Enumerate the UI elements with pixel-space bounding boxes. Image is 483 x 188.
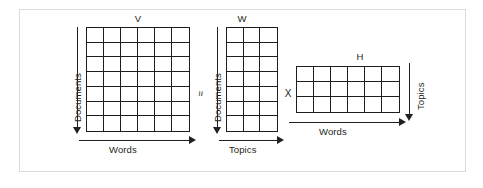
matrix-cell	[121, 43, 138, 58]
matrix-cell	[87, 57, 104, 72]
matrix-cell	[244, 28, 261, 43]
axis-label-v-words: Words	[109, 144, 137, 155]
matrix-cell	[244, 57, 261, 72]
matrix-cell	[104, 72, 121, 87]
matrix-cell	[138, 57, 155, 72]
matrix-cell	[121, 28, 138, 43]
arrowhead-down-icon	[73, 127, 81, 134]
matrix-cell	[172, 43, 189, 58]
matrix-cell	[314, 67, 331, 82]
matrix-cell	[365, 82, 382, 97]
axis-label-h-words: Words	[319, 126, 347, 137]
matrix-cell	[172, 72, 189, 87]
matrix-cell	[155, 28, 172, 43]
matrix-cell	[172, 87, 189, 102]
matrix-cell	[297, 82, 314, 97]
matrix-cell	[260, 28, 277, 43]
matrix-cell	[138, 87, 155, 102]
matrix-cell	[331, 67, 348, 82]
matrix-cell	[121, 102, 138, 117]
matrix-cell	[87, 87, 104, 102]
matrix-cell	[121, 72, 138, 87]
matrix-cell	[138, 28, 155, 43]
matrix-cell	[227, 102, 244, 117]
matrix-cell	[348, 97, 365, 112]
matrix-cell	[104, 28, 121, 43]
matrix-cell	[155, 57, 172, 72]
matrix-cell	[172, 102, 189, 117]
arrowhead-right-icon	[277, 136, 284, 144]
matrix-cell	[260, 87, 277, 102]
matrix-cell	[172, 28, 189, 43]
matrix-label-w: W	[206, 13, 278, 24]
matrix-cell	[227, 28, 244, 43]
matrix-cell	[331, 97, 348, 112]
times-operator: X	[282, 88, 294, 99]
axis-label-w-documents: Documents	[212, 73, 223, 122]
matrix-cell	[244, 72, 261, 87]
matrix-cell	[121, 57, 138, 72]
matrix-w	[226, 27, 278, 132]
axis-label-w-topics: Topics	[229, 144, 257, 155]
matrix-cell	[155, 43, 172, 58]
matrix-cell	[227, 72, 244, 87]
matrix-cell	[138, 102, 155, 117]
matrix-cell	[172, 57, 189, 72]
matrix-cell	[87, 72, 104, 87]
matrix-cell	[348, 67, 365, 82]
matrix-cell	[155, 102, 172, 117]
matrix-cell	[244, 102, 261, 117]
matrix-cell	[314, 97, 331, 112]
axis-label-h-topics: Topics	[415, 82, 426, 110]
matrix-cell	[227, 116, 244, 131]
matrix-cell	[104, 116, 121, 131]
matrix-cell	[365, 67, 382, 82]
matrix-cell	[121, 116, 138, 131]
arrowhead-right-icon	[399, 118, 406, 126]
matrix-cell	[244, 116, 261, 131]
axis-label-v-documents: Documents	[72, 73, 83, 122]
matrix-cell	[138, 116, 155, 131]
matrix-cell	[87, 43, 104, 58]
matrix-cell	[138, 43, 155, 58]
matrix-v	[86, 27, 190, 132]
matrix-cell	[104, 87, 121, 102]
arrowhead-down-icon	[405, 114, 413, 121]
matrix-cell	[365, 97, 382, 112]
matrix-cell	[172, 116, 189, 131]
matrix-cell	[331, 82, 348, 97]
matrix-cell	[227, 87, 244, 102]
matrix-cell	[260, 72, 277, 87]
nmf-diagram: V Documents Words ≈ W Documents	[0, 0, 483, 188]
matrix-cell	[155, 87, 172, 102]
matrix-cell	[155, 116, 172, 131]
matrix-cell	[297, 67, 314, 82]
matrix-cell	[155, 72, 172, 87]
matrix-cell	[314, 82, 331, 97]
matrix-label-v: V	[83, 13, 193, 24]
matrix-cell	[244, 43, 261, 58]
matrix-cell	[382, 82, 399, 97]
matrix-cell	[260, 102, 277, 117]
matrix-cell	[104, 57, 121, 72]
matrix-cell	[227, 57, 244, 72]
matrix-cell	[382, 67, 399, 82]
matrix-cell	[227, 43, 244, 58]
matrix-cell	[138, 72, 155, 87]
matrix-cell	[260, 116, 277, 131]
matrix-cell	[87, 102, 104, 117]
matrix-cell	[260, 57, 277, 72]
figure-frame: V Documents Words ≈ W Documents	[19, 9, 466, 172]
matrix-cell	[87, 116, 104, 131]
matrix-cell	[348, 82, 365, 97]
matrix-cell	[87, 28, 104, 43]
arrowhead-right-icon	[189, 136, 196, 144]
matrix-cell	[297, 97, 314, 112]
arrowhead-down-icon	[213, 127, 221, 134]
matrix-cell	[260, 43, 277, 58]
matrix-cell	[104, 43, 121, 58]
approx-operator: ≈	[195, 88, 206, 100]
matrix-cell	[121, 87, 138, 102]
matrix-h	[296, 66, 400, 113]
matrix-cell	[104, 102, 121, 117]
